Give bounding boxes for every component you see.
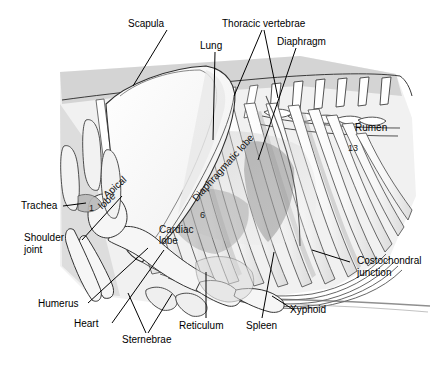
anatomy-figure: Scapula Lung Thoracic vertebrae Diaphrag…: [0, 0, 444, 365]
label-shoulder-joint-line1: Shoulder: [24, 232, 64, 244]
label-costochondral-junction-line2: junction: [357, 267, 391, 279]
label-reticulum: Reticulum: [179, 320, 223, 332]
label-lung: Lung: [200, 40, 222, 52]
rib-number-13: 13: [348, 143, 358, 153]
label-diaphragm: Diaphragm: [277, 36, 326, 48]
rib-number-1: 1: [89, 203, 94, 213]
label-rumen: Rumen: [355, 122, 387, 134]
label-humerus: Humerus: [38, 298, 79, 310]
rib-number-6: 6: [200, 210, 205, 220]
label-spleen: Spleen: [246, 320, 277, 332]
label-thoracic-vertebrae: Thoracic vertebrae: [222, 18, 305, 30]
inline-label-cardiac-lobe-line1: Cardiac: [159, 224, 193, 235]
inline-label-cardiac-lobe-line2: lobe: [159, 235, 178, 246]
label-costochondral-junction-line1: Costochondral: [357, 255, 421, 267]
label-trachea: Trachea: [21, 200, 57, 212]
label-sternebrae: Sternebrae: [122, 334, 171, 346]
label-heart: Heart: [74, 318, 98, 330]
label-xyphoid: Xyphoid: [290, 304, 326, 316]
anatomy-illustration: [0, 0, 444, 365]
label-shoulder-joint-line2: joint: [24, 244, 42, 256]
label-scapula: Scapula: [128, 18, 164, 30]
